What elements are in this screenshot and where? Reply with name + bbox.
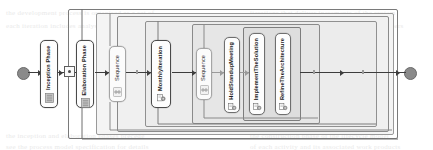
sequence-icon (113, 87, 122, 97)
arrowhead-final (396, 70, 400, 76)
node-sequence-outer[interactable]: Sequence (109, 46, 126, 102)
background-text-line-7: of each activity and its associated work… (250, 143, 401, 150)
node-sequence-inner[interactable]: Sequence (196, 48, 212, 100)
arrowhead-exit-inner (340, 70, 344, 76)
phase-icon (45, 93, 54, 103)
node-monthly-iteration[interactable]: MonthlyIteration (151, 40, 171, 108)
node-implement-the-solution-label: ImplementTheSolution (254, 38, 260, 102)
task-icon (279, 102, 288, 112)
final-node (404, 67, 417, 80)
arrowhead-junction (59, 70, 63, 76)
edge-tick-c (362, 70, 364, 74)
task-icon (228, 102, 237, 112)
node-refine-the-architecture-label: RefineTheArchitecture (280, 38, 286, 102)
background-text-line-6: see the process model specification for … (6, 143, 149, 150)
node-elaboration-phase[interactable]: Elaboration Phase (76, 40, 94, 108)
node-junction[interactable] (64, 66, 75, 77)
edge-tick-b (313, 70, 315, 74)
node-elaboration-phase-label: Elaboration Phase (82, 45, 88, 98)
node-sequence-inner-label: Sequence (201, 53, 207, 85)
node-monthly-iteration-label: MonthlyIteration (158, 45, 164, 93)
task-icon (253, 102, 262, 112)
iteration-icon (157, 93, 166, 103)
sequence-icon (200, 85, 209, 95)
node-inception-phase[interactable]: Inception Phase (40, 40, 58, 108)
node-refine-the-architecture[interactable]: RefineTheArchitecture (275, 33, 291, 115)
activity-diagram-canvas: the development process is organised as … (0, 0, 433, 150)
node-sequence-outer-label: Sequence (115, 51, 121, 87)
initial-node (17, 67, 30, 80)
edge-tick-a (136, 70, 138, 74)
node-implement-the-solution[interactable]: ImplementTheSolution (249, 33, 265, 115)
junction-dot (68, 70, 71, 73)
node-hold-standup-meeting-label: HoldStandupMeeting (229, 42, 235, 102)
node-inception-phase-label: Inception Phase (46, 45, 52, 93)
phase-icon (81, 98, 90, 108)
node-hold-standup-meeting[interactable]: HoldStandupMeeting (224, 37, 240, 113)
